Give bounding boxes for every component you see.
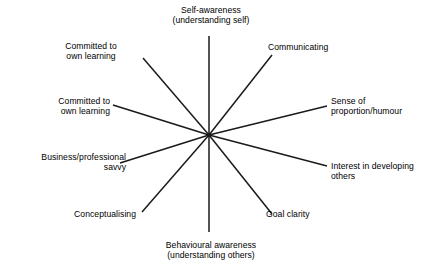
- spoke-label-conceptualising: Conceptualising: [2, 209, 136, 219]
- spoke-label-goal-clarity: Goal clarity: [266, 209, 366, 219]
- spoke-line-committed-to-own-learning-upper: [143, 58, 209, 135]
- spoke-line-business-professional-savvy: [120, 135, 209, 163]
- spoke-label-interest-in-developing-others: Interest in developing others: [331, 161, 437, 182]
- center-hub: [207, 133, 211, 137]
- spoke-label-business-professional-savvy: Business/professional savvy: [0, 152, 126, 173]
- diagram-canvas: Self-awareness (understanding self) Comm…: [0, 0, 440, 279]
- spoke-line-goal-clarity: [209, 135, 272, 214]
- spoke-line-conceptualising: [142, 135, 209, 212]
- spoke-label-self-awareness: Self-awareness (understanding self): [133, 5, 289, 26]
- spoke-label-communicating: Communicating: [268, 42, 388, 52]
- spoke-line-committed-to-own-learning-left: [113, 105, 209, 135]
- spoke-label-committed-to-own-learning-left: Committed to own learning: [4, 96, 110, 117]
- spoke-line-interest-in-developing-others: [209, 135, 327, 166]
- spoke-label-behavioural-awareness: Behavioural awareness (understanding oth…: [134, 240, 288, 261]
- spoke-label-committed-to-own-learning-upper: Committed to own learning: [42, 41, 140, 62]
- spoke-line-communicating: [209, 55, 272, 135]
- spoke-line-sense-of-proportion-humour: [209, 106, 327, 135]
- spoke-label-sense-of-proportion-humour: Sense of proportion/humour: [331, 96, 439, 117]
